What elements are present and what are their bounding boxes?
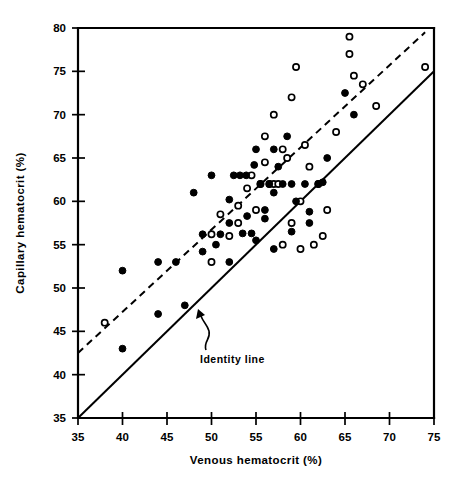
data-point: [373, 103, 379, 109]
x-axis-title: Venous hematocrit (%): [190, 454, 322, 466]
data-point: [346, 34, 352, 40]
x-tick-label: 70: [383, 431, 396, 443]
data-point: [297, 246, 303, 252]
data-point: [319, 179, 326, 186]
y-axis-title: Capillary hematocrit (%): [14, 152, 26, 293]
data-point: [226, 220, 233, 227]
data-point: [239, 230, 246, 237]
data-point: [199, 231, 206, 238]
data-point: [288, 181, 295, 188]
y-tick-label: 35: [53, 412, 66, 424]
y-tick-label: 70: [53, 109, 66, 121]
data-point: [262, 215, 269, 222]
data-point: [208, 172, 215, 179]
data-point: [422, 64, 428, 70]
data-point: [266, 181, 273, 188]
data-point: [226, 196, 233, 203]
x-tick-label: 50: [205, 431, 218, 443]
data-point: [102, 320, 108, 326]
data-point: [351, 73, 357, 79]
y-tick-label: 60: [53, 195, 66, 207]
y-tick-label: 55: [53, 239, 66, 251]
x-tick-label: 55: [250, 431, 263, 443]
plot-background: [0, 0, 462, 482]
x-tick-label: 60: [294, 431, 307, 443]
data-point: [342, 90, 349, 97]
x-tick-label: 40: [116, 431, 129, 443]
x-axis-tick-labels: 354045505560657075: [72, 431, 441, 443]
data-point: [306, 208, 313, 215]
data-point: [244, 185, 250, 191]
y-tick-label: 45: [53, 325, 66, 337]
data-point: [280, 146, 286, 152]
data-point: [302, 181, 309, 188]
data-point: [270, 189, 277, 196]
data-point: [253, 207, 259, 213]
data-point: [235, 220, 241, 226]
y-tick-label: 40: [53, 369, 66, 381]
data-point: [280, 242, 286, 248]
data-point: [213, 241, 220, 248]
data-point: [270, 146, 277, 153]
data-point: [289, 220, 295, 226]
data-point: [217, 211, 223, 217]
data-point: [293, 64, 299, 70]
y-tick-label: 80: [53, 22, 66, 34]
data-point: [288, 228, 295, 235]
data-point: [262, 207, 269, 214]
data-point: [155, 311, 162, 318]
data-point: [248, 230, 255, 237]
data-point: [226, 259, 233, 266]
data-point: [208, 259, 214, 265]
data-point: [275, 163, 282, 170]
data-point: [199, 248, 206, 255]
scatter-plot: 35404550556065707580 354045505560657075 …: [0, 0, 462, 482]
data-point: [190, 189, 197, 196]
data-point: [293, 198, 300, 205]
data-point: [244, 213, 251, 220]
data-point: [324, 207, 330, 213]
data-point: [351, 111, 358, 118]
x-tick-label: 35: [72, 431, 85, 443]
y-tick-label: 75: [53, 65, 66, 77]
data-point: [346, 51, 352, 57]
data-point: [284, 155, 290, 161]
data-point: [119, 267, 126, 274]
data-point: [243, 172, 250, 179]
data-point: [311, 242, 317, 248]
figure-container: 35404550556065707580 354045505560657075 …: [0, 0, 462, 482]
data-point: [306, 220, 313, 227]
data-point: [324, 155, 331, 162]
data-point: [360, 81, 366, 87]
data-point: [235, 203, 241, 209]
data-point: [208, 231, 214, 237]
data-point: [226, 233, 232, 239]
data-point: [279, 181, 286, 188]
data-point: [155, 259, 162, 266]
data-point: [181, 302, 188, 309]
data-point: [333, 129, 339, 135]
identity-line-annotation: Identity line: [200, 353, 265, 365]
data-point: [270, 246, 277, 253]
data-point: [320, 233, 326, 239]
x-tick-label: 45: [161, 431, 174, 443]
x-tick-label: 65: [339, 431, 352, 443]
data-point: [257, 181, 264, 188]
data-point: [284, 133, 291, 140]
data-point: [217, 231, 224, 238]
y-tick-label: 50: [53, 282, 66, 294]
data-point: [306, 164, 312, 170]
data-point: [253, 237, 260, 244]
data-point: [253, 146, 260, 153]
data-point: [173, 259, 180, 266]
data-point: [262, 159, 268, 165]
data-point: [271, 112, 277, 118]
data-point: [251, 162, 258, 169]
x-tick-label: 75: [428, 431, 441, 443]
data-point: [289, 94, 295, 100]
data-point: [119, 345, 126, 352]
data-point: [262, 133, 268, 139]
y-tick-label: 65: [53, 152, 66, 164]
data-point: [302, 142, 308, 148]
